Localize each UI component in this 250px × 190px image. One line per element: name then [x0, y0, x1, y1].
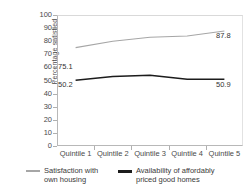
data-label-series2-last: 50.9 [216, 80, 231, 89]
legend-label-line1: Satisfaction with [44, 166, 98, 175]
x-tick-label-quintile-5: Quintile 5 [206, 149, 243, 163]
x-tick-label-quintile-4: Quintile 4 [169, 149, 206, 163]
legend-label-satisfaction: Satisfaction with own housing [44, 166, 98, 184]
x-tick-label-quintile-2: Quintile 2 [94, 149, 131, 163]
legend-label-availability: Availability of affordably priced good h… [136, 166, 215, 184]
legend-swatch-icon [118, 170, 132, 173]
legend-item-satisfaction: Satisfaction with own housing [0, 166, 118, 190]
series-availability-line [76, 75, 225, 80]
data-label-series2-first: 50.2 [58, 80, 73, 89]
legend-label-line2: priced good homes [136, 175, 200, 184]
legend-label-line1: Availability of affordably [136, 166, 215, 175]
x-axis-tick-labels: Quintile 1 Quintile 2 Quintile 3 Quintil… [57, 149, 243, 163]
data-label-series1-first: 75.1 [58, 62, 73, 71]
data-label-series1-last: 87.8 [216, 31, 231, 40]
x-tick-label-quintile-3: Quintile 3 [131, 149, 168, 163]
legend-swatch-icon [26, 170, 40, 172]
legend-label-line2: own housing [44, 175, 86, 184]
chart-legend: Satisfaction with own housing Availabili… [0, 166, 250, 190]
series-satisfaction-line [76, 31, 225, 48]
x-tick-label-quintile-1: Quintile 1 [57, 149, 94, 163]
legend-item-availability: Availability of affordably priced good h… [118, 166, 250, 190]
line-chart: Percentage satisfied 100 90 80 70 60 50 … [0, 0, 250, 190]
